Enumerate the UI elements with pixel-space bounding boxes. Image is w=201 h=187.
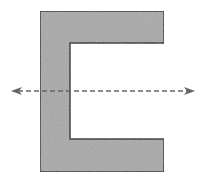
diagram-canvas xyxy=(0,0,201,187)
right-arrowhead-icon xyxy=(184,87,195,95)
